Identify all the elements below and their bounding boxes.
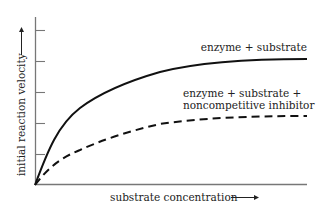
series-enzyme-substrate-label: enzyme + substrate xyxy=(201,41,307,53)
x-axis-label: substrate concentration xyxy=(110,191,238,203)
y-axis-arrow-icon xyxy=(19,27,24,55)
y-ticks xyxy=(36,31,46,155)
series-inhibitor-label-line1: enzyme + substrate + xyxy=(183,87,301,99)
series-inhibitor-label-line2: noncompetitive inhibitor xyxy=(183,99,315,111)
y-axis-label: initial reaction velocity xyxy=(15,53,27,176)
chart: enzyme + substrate enzyme + substrate + … xyxy=(0,0,323,211)
series-enzyme-substrate-line xyxy=(35,59,307,185)
series-inhibitor-line xyxy=(35,116,307,185)
